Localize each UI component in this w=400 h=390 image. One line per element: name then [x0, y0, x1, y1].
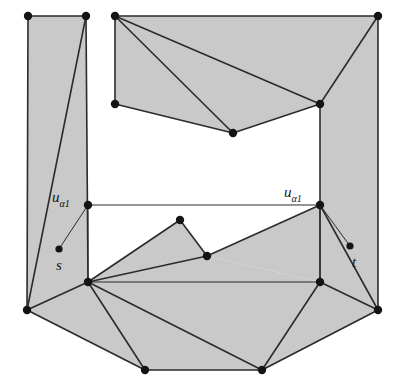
vertex-t-node: [346, 242, 353, 249]
graph-diagram: uα1uα1st: [0, 0, 400, 390]
vertex-tm-left-low: [111, 100, 119, 108]
vertex-left-hub: [84, 278, 92, 286]
vertex-right-hub-top: [316, 100, 324, 108]
label-s: s: [56, 257, 62, 273]
label-u-right: uα1: [284, 184, 302, 203]
vertex-tr-outer: [374, 12, 382, 20]
vertex-br-outer: [374, 306, 382, 314]
vertex-mid-right: [203, 252, 211, 260]
vertex-tl-outer: [24, 12, 32, 20]
vertex-tl-inner: [82, 12, 90, 20]
vertex-tm-left: [111, 12, 119, 20]
figure-container: uα1uα1st: [0, 0, 400, 390]
vertex-u-right-node: [316, 201, 324, 209]
left-col-left: [27, 16, 28, 310]
vertex-bottom-left: [141, 366, 149, 374]
vertex-mid-peak: [176, 216, 184, 224]
vertex-u-left-node: [84, 201, 92, 209]
vertex-right-hub: [316, 278, 324, 286]
vertex-bl-outer: [23, 306, 31, 314]
faces-layer: [27, 16, 378, 370]
vertex-upper-mid-low: [229, 129, 237, 137]
vertex-s-node: [55, 245, 62, 252]
vertex-bottom-right: [258, 366, 266, 374]
